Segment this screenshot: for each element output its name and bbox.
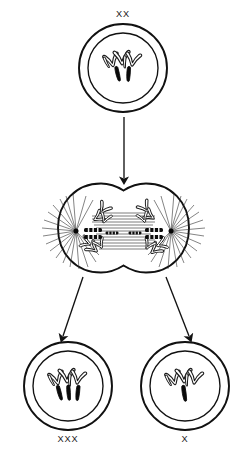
parent-cell-group: XX [79,9,167,112]
dividing-cell-group [42,184,205,273]
parent-cell-genotype-label: XX [116,9,130,19]
right-daughter-cell-group: X [141,342,229,444]
parent-cell-nuclear-envelope [88,33,158,103]
left-banded-chromosome [84,228,102,232]
right-banded-chromosome [129,232,142,235]
cell-division-diagram: XX [0,0,247,457]
right-centrosome [169,229,174,234]
diagram-canvas: XX [0,0,247,457]
left-banded-chromosome [84,235,102,239]
right-daughter-genotype-label: X [181,434,188,444]
right-banded-chromosome [145,235,163,239]
right-banded-chromosome [145,228,163,232]
left-banded-chromosome [106,232,119,235]
arrow-to-left-daughter-cell [63,277,83,336]
left-daughter-genotype-label: XXX [57,434,78,444]
arrow-to-right-daughter-cell [166,277,189,336]
left-centrosome [74,229,79,234]
left-daughter-cell-group: XXX [24,342,112,444]
